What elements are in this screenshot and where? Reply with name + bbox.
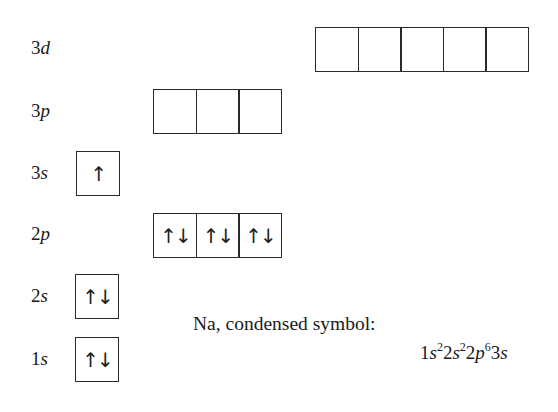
- orbital-row-3d: [315, 27, 529, 72]
- principal-number: 2: [31, 223, 41, 244]
- orbital-box: [485, 27, 529, 72]
- subshell-letter: d: [41, 37, 51, 58]
- subshell-letter: s: [41, 162, 48, 183]
- orbital-label-3d: 3d: [31, 38, 50, 57]
- orbital-row-2p: ↑↓ ↑↓ ↑↓: [153, 213, 282, 258]
- orbital-box: [238, 89, 282, 134]
- orbital-row-3p: [153, 89, 282, 134]
- orbital-box-up-arrow: ↑: [76, 151, 120, 196]
- condensed-symbol-caption: Na, condensed symbol:: [193, 313, 376, 335]
- orbital-box: [196, 89, 240, 134]
- formula-n: 2: [466, 342, 476, 363]
- subshell-letter: p: [41, 223, 51, 244]
- principal-number: 3: [31, 37, 41, 58]
- orbital-label-2p: 2p: [31, 224, 50, 243]
- orbital-row-1s: ↑↓: [75, 337, 119, 382]
- formula-n: 1: [420, 342, 430, 363]
- principal-number: 3: [31, 162, 41, 183]
- electron-configuration: 1s22s22p63s: [420, 342, 508, 364]
- orbital-box-paired-arrows: ↑↓: [153, 213, 197, 258]
- formula-sub: s: [500, 342, 507, 363]
- orbital-label-1s: 1s: [31, 349, 48, 368]
- orbital-box: [315, 27, 359, 72]
- orbital-row-3s: ↑: [76, 151, 120, 196]
- formula-n: 3: [491, 342, 501, 363]
- orbital-box-paired-arrows: ↑↓: [238, 213, 282, 258]
- formula-sub: s: [430, 342, 437, 363]
- orbital-box-paired-arrows: ↑↓: [196, 213, 240, 258]
- orbital-box-paired-arrows: ↑↓: [75, 337, 119, 382]
- subshell-letter: s: [41, 348, 48, 369]
- orbital-box: [153, 89, 197, 134]
- orbital-box: [443, 27, 487, 72]
- subshell-letter: p: [41, 100, 51, 121]
- formula-n: 2: [443, 342, 453, 363]
- orbital-box: [358, 27, 402, 72]
- principal-number: 1: [31, 348, 41, 369]
- principal-number: 2: [31, 285, 41, 306]
- orbital-box: [400, 27, 444, 72]
- orbital-box-paired-arrows: ↑↓: [75, 274, 119, 319]
- subshell-letter: s: [41, 285, 48, 306]
- principal-number: 3: [31, 100, 41, 121]
- formula-sub: s: [452, 342, 459, 363]
- orbital-label-2s: 2s: [31, 286, 48, 305]
- orbital-label-3p: 3p: [31, 101, 50, 120]
- orbital-row-2s: ↑↓: [75, 274, 119, 319]
- orbital-label-3s: 3s: [31, 163, 48, 182]
- formula-sub: p: [475, 342, 485, 363]
